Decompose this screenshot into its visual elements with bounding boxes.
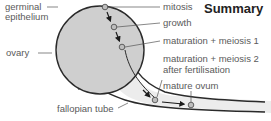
label-fallopian-tube: fallopian tube xyxy=(57,104,114,114)
label-growth: growth xyxy=(163,18,192,28)
label-after-fertilisation: after fertilisation xyxy=(163,65,230,75)
cell-meiosis2 xyxy=(152,97,158,103)
cell-meiosis1 xyxy=(119,44,125,50)
cell-mature-ovum xyxy=(188,102,194,108)
label-mitosis: mitosis xyxy=(163,2,193,12)
label-mature-ovum: mature ovum xyxy=(163,81,218,91)
cell-growth xyxy=(111,24,117,30)
label-germinal-epithelium-2: epithelium xyxy=(5,12,48,22)
label-maturation-meiosis-1: maturation + meiosis 1 xyxy=(163,36,259,46)
label-maturation-meiosis-2: maturation + meiosis 2 xyxy=(163,54,259,64)
summary-title: Summary xyxy=(204,1,263,16)
cell-mitosis xyxy=(102,4,108,10)
ovary xyxy=(56,6,144,94)
label-ovary: ovary xyxy=(6,48,29,58)
